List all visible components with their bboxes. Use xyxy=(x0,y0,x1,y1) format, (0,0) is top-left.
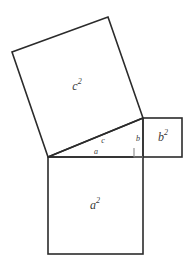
diagram-canvas: c2 a2 b2 a b c xyxy=(0,0,193,271)
pythagorean-theorem-figure: c2 a2 b2 a b c xyxy=(0,0,193,271)
square-c-label-exponent: 2 xyxy=(78,77,82,86)
side-b-label: b xyxy=(136,134,140,143)
side-a-label: a xyxy=(94,147,98,156)
square-a-label-exponent: 2 xyxy=(96,196,100,205)
right-angle-marker xyxy=(134,148,143,157)
square-b-label-exponent: 2 xyxy=(164,128,168,137)
side-c-label: c xyxy=(101,136,105,145)
